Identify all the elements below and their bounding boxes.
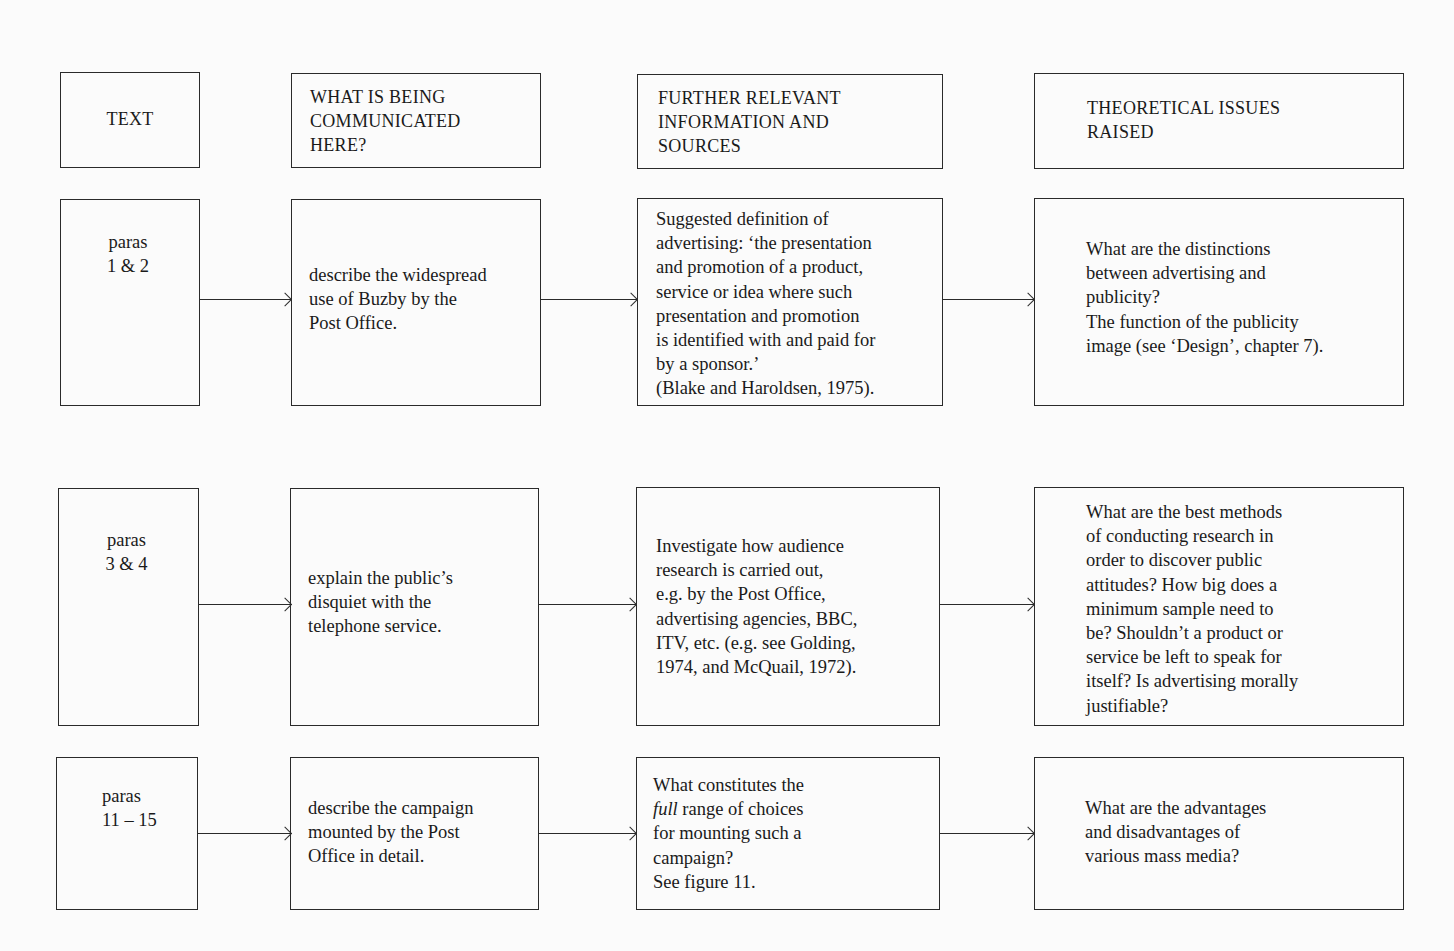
row1-arrow-2 xyxy=(541,299,637,300)
row3-arrow-1 xyxy=(198,833,291,834)
row3-information-text: What constitutes the full range of choic… xyxy=(653,773,804,894)
row2-text-box xyxy=(58,488,199,726)
row3-information-rest: for mounting such a campaign? See figure… xyxy=(653,823,802,891)
header-information-label: FURTHER RELEVANT INFORMATION AND SOURCES xyxy=(658,86,841,158)
row2-information-text: Investigate how audience research is car… xyxy=(656,534,857,679)
row3-issues-text: What are the advantages and disadvantage… xyxy=(1085,796,1266,869)
row3-communicated-text: describe the campaign mounted by the Pos… xyxy=(308,796,473,869)
row3-text-box xyxy=(56,757,198,910)
header-issues-label: THEORETICAL ISSUES RAISED xyxy=(1087,96,1280,144)
row1-arrow-1 xyxy=(200,299,291,300)
row2-arrow-1 xyxy=(199,604,291,605)
row1-arrow-3 xyxy=(943,299,1034,300)
row3-arrow-3 xyxy=(940,833,1034,834)
header-text-label: TEXT xyxy=(60,107,200,131)
row3-arrow-2 xyxy=(539,833,636,834)
row2-issues-text: What are the best methods of conducting … xyxy=(1086,500,1298,718)
row1-communicated-text: describe the widespread use of Buzby by … xyxy=(309,263,487,336)
row2-arrow-3 xyxy=(940,604,1034,605)
row2-communicated-text: explain the public’s disquiet with the t… xyxy=(308,566,453,639)
row2-arrow-2 xyxy=(539,604,636,605)
row1-issues-text: What are the distinctions between advert… xyxy=(1086,237,1323,358)
row2-text-label: paras 3 & 4 xyxy=(58,528,195,576)
row3-information-italic-full: full xyxy=(653,799,678,819)
row3-information-line2-rest: range of choices xyxy=(678,799,804,819)
header-communicated-label: WHAT IS BEING COMMUNICATED HERE? xyxy=(310,85,461,157)
row3-text-label: paras 11 – 15 xyxy=(102,784,157,832)
row3-information-line1: What constitutes the xyxy=(653,775,804,795)
row1-text-label: paras 1 & 2 xyxy=(60,230,196,278)
row1-information-text: Suggested definition of advertising: ‘th… xyxy=(656,207,875,401)
